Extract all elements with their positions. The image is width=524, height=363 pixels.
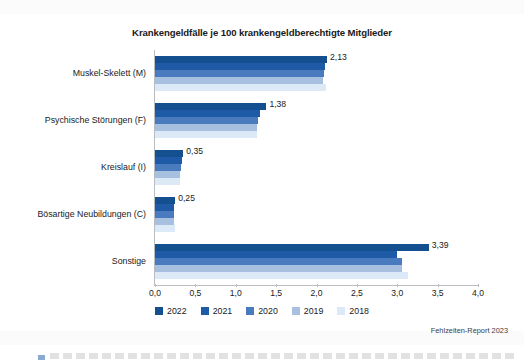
category-label: Sonstige: [112, 256, 146, 266]
bar-2022: [155, 244, 429, 251]
bar-2020: [155, 258, 402, 265]
caption-text-blur: [50, 353, 516, 359]
x-tick-label: 1,0: [230, 288, 242, 298]
x-tick-mark: [397, 284, 398, 287]
legend-item-2018[interactable]: 2018: [337, 307, 369, 316]
bar-value-label: 1,38: [266, 99, 286, 109]
x-axis-tick-labels: 0,00,51,01,52,02,53,03,54,0: [155, 288, 478, 302]
legend-label: 2022: [167, 307, 187, 316]
bar-value-label: 2,13: [327, 52, 347, 62]
bar-2019: [155, 265, 402, 272]
legend-swatch-icon: [246, 307, 254, 315]
x-tick-label: 3,5: [432, 288, 444, 298]
bar-2019: [155, 171, 180, 178]
chart-figure: Krankengeldfälle je 100 krankengeldberec…: [0, 0, 524, 345]
plot-area: 2,131,380,350,253,39: [155, 50, 478, 285]
legend-item-2020[interactable]: 2020: [246, 307, 278, 316]
bar-2020: [155, 211, 174, 218]
bar-2022: [155, 197, 175, 204]
bar-2022: [155, 103, 266, 110]
bar-group: 1,38: [155, 103, 478, 138]
x-tick-mark: [317, 284, 318, 287]
legend-label: 2021: [213, 307, 233, 316]
category-label: Kreislauf (I): [101, 162, 146, 172]
bar-group: 3,39: [155, 244, 478, 279]
x-tick-mark: [236, 284, 237, 287]
legend-label: 2019: [304, 307, 324, 316]
bar-value-label: 0,25: [175, 193, 195, 203]
bar-2020: [155, 164, 181, 171]
category-label: Muskel-Skelett (M): [73, 68, 146, 78]
x-tick-mark: [195, 284, 196, 287]
x-tick-label: 4,0: [472, 288, 484, 298]
x-tick-mark: [276, 284, 277, 287]
bar-2020: [155, 70, 324, 77]
legend-item-2021[interactable]: 2021: [201, 307, 233, 316]
x-tick-label: 2,5: [351, 288, 363, 298]
category-label: Bösartige Neubildungen (C): [37, 209, 146, 219]
bar-2021: [155, 251, 397, 258]
caption-bullet-icon: [38, 355, 45, 360]
x-tick-mark: [478, 284, 479, 287]
chart-title: Krankengeldfälle je 100 krankengeldberec…: [0, 27, 524, 38]
bar-2022: [155, 56, 327, 63]
bar-2018: [155, 178, 180, 185]
category-label: Psychische Störungen (F): [45, 115, 146, 125]
x-tick-label: 0,0: [149, 288, 161, 298]
x-tick-label: 2,0: [311, 288, 323, 298]
x-tick-label: 1,5: [270, 288, 282, 298]
bar-value-label: 3,39: [429, 240, 449, 250]
bar-2019: [155, 77, 323, 84]
bar-2022: [155, 150, 183, 157]
category-axis-labels: Muskel-Skelett (M)Psychische Störungen (…: [0, 50, 150, 285]
bar-2018: [155, 84, 326, 91]
source-note: Fehlzeiten-Report 2023: [431, 326, 508, 335]
bar-group: 0,25: [155, 197, 478, 232]
scan-edge-top: [0, 0, 524, 14]
bar-2019: [155, 124, 257, 131]
bar-value-label: 0,35: [183, 146, 203, 156]
legend-label: 2020: [258, 307, 278, 316]
bar-2018: [155, 272, 408, 279]
legend-swatch-icon: [337, 307, 345, 315]
bar-group: 2,13: [155, 56, 478, 91]
bar-2019: [155, 218, 174, 225]
bar-2021: [155, 157, 182, 164]
x-tick-mark: [438, 284, 439, 287]
legend-swatch-icon: [155, 307, 163, 315]
legend-swatch-icon: [201, 307, 209, 315]
x-tick-label: 0,5: [189, 288, 201, 298]
bar-group: 0,35: [155, 150, 478, 185]
x-tick-mark: [357, 284, 358, 287]
legend-label: 2018: [349, 307, 369, 316]
bar-2021: [155, 63, 325, 70]
legend-swatch-icon: [292, 307, 300, 315]
legend-item-2019[interactable]: 2019: [292, 307, 324, 316]
bar-2018: [155, 225, 175, 232]
bar-2021: [155, 204, 174, 211]
bar-2021: [155, 110, 260, 117]
x-tick-mark: [155, 284, 156, 287]
page-caption-sliver: [0, 352, 524, 363]
x-tick-label: 3,0: [391, 288, 403, 298]
legend-item-2022[interactable]: 2022: [155, 307, 187, 316]
bar-2020: [155, 117, 258, 124]
chart-legend: 20222021202020192018: [0, 307, 524, 316]
bar-2018: [155, 131, 257, 138]
